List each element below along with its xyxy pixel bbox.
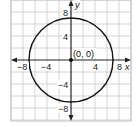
coordinate-plane: −8 −4 4 8 x 8 4 −4 −8 y (0, 0) <box>0 0 136 127</box>
x-tick-label: 4 <box>93 62 98 72</box>
x-axis-label: x <box>124 62 130 72</box>
x-tick-label: 8 <box>117 62 122 72</box>
x-tick-label: −8 <box>17 62 27 72</box>
x-tick-label: −4 <box>41 62 51 72</box>
y-tick-label: −8 <box>58 104 68 114</box>
y-tick-label: 4 <box>63 32 68 42</box>
y-axis-label: y <box>74 0 80 10</box>
origin-label: (0, 0) <box>73 49 94 59</box>
y-tick-label: 8 <box>63 8 68 18</box>
y-tick-label: −4 <box>58 80 68 90</box>
